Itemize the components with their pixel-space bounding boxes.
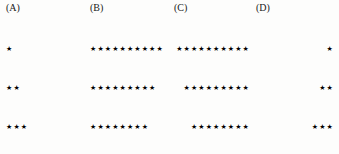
panel-a-star-rows: ★ ★★ ★★★ ★★★★ ★★★★★ ★★★★★★ ★★★★★★★ ★★★★★… [6, 17, 80, 154]
star-pattern-figure: (A) ★ ★★ ★★★ ★★★★ ★★★★★ ★★★★★★ ★★★★★★★ ★… [0, 0, 339, 154]
panel-b-star-rows: ★★★★★★★★★★ ★★★★★★★★★ ★★★★★★★★ ★★★★★★★ ★★… [90, 17, 164, 154]
panel-c: (C) ★★★★★★★★★★ ★★★★★★★★★ ★★★★★★★★ ★★★★★★… [174, 0, 250, 154]
panel-d-star-rows: ★ ★★ ★★★ ★★★★ ★★★★★ ★★★★★★ ★★★★★★★ ★★★★★… [260, 17, 334, 154]
star-row: ★★★ [260, 121, 334, 134]
panel-b-label: (B) [90, 2, 103, 14]
star-row: ★★★★★★★★★★ [176, 43, 250, 56]
star-row: ★★ [6, 82, 80, 95]
panel-b: (B) ★★★★★★★★★★ ★★★★★★★★★ ★★★★★★★★ ★★★★★★… [90, 0, 168, 154]
panel-d-label: (D) [256, 2, 270, 14]
star-row: ★★★ [6, 121, 80, 134]
star-row: ★★ [260, 82, 334, 95]
star-row: ★★★★★★★★★ [176, 82, 250, 95]
panel-a: (A) ★ ★★ ★★★ ★★★★ ★★★★★ ★★★★★★ ★★★★★★★ ★… [6, 0, 84, 154]
panel-a-label: (A) [6, 2, 20, 14]
star-row: ★★★★★★★★ [90, 121, 164, 134]
star-row: ★★★★★★★★★★ [90, 43, 164, 56]
panel-c-star-rows: ★★★★★★★★★★ ★★★★★★★★★ ★★★★★★★★ ★★★★★★★ ★★… [176, 17, 250, 154]
star-row: ★★★★★★★★ [176, 121, 250, 134]
panel-d: (D) ★ ★★ ★★★ ★★★★ ★★★★★ ★★★★★★ ★★★★★★★ ★… [256, 0, 334, 154]
star-row: ★ [260, 43, 334, 56]
star-row: ★★★★★★★★★ [90, 82, 164, 95]
panel-c-label: (C) [174, 2, 187, 14]
star-row: ★ [6, 43, 80, 56]
